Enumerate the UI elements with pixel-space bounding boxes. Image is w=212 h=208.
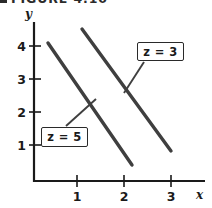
plot-area [0, 0, 212, 208]
y-axis-label: y [25, 7, 32, 21]
x-tick-label-1: 1 [70, 189, 84, 204]
callout-label-z5: z = 5 [41, 127, 88, 147]
leader-line-z5 [66, 99, 96, 126]
callout-label-z3: z = 3 [137, 42, 184, 61]
leader-line-z3 [124, 62, 144, 93]
x-tick-label-2: 2 [117, 189, 131, 204]
y-tick-label-3: 3 [14, 72, 26, 87]
y-tick-label-2: 2 [14, 105, 26, 120]
x-tick-label-3: 3 [164, 189, 178, 204]
figure-container: FIGURE 4.10 y x 4 3 2 1 1 2 3 z = 3 z = … [0, 0, 212, 208]
x-axis-label: x [196, 188, 203, 202]
y-tick-label-1: 1 [14, 138, 26, 153]
y-tick-label-4: 4 [14, 39, 26, 54]
